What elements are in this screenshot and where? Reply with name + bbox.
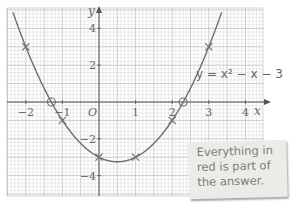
y-axis-label: y xyxy=(87,4,95,18)
y-tick-label: 2 xyxy=(89,59,96,72)
x-axis-label: x xyxy=(254,104,261,118)
x-tick-label: 1 xyxy=(132,106,139,119)
equation-label: y = x² − x − 3 xyxy=(196,67,283,81)
x-tick-label: 4 xyxy=(242,106,249,119)
x-tick-label: −2 xyxy=(18,106,34,119)
note-line-2: red is part of xyxy=(197,158,283,175)
y-tick-label: −2 xyxy=(80,133,96,146)
y-tick-label: −4 xyxy=(80,170,96,183)
x-tick-label: 3 xyxy=(205,106,212,119)
y-tick-label: 4 xyxy=(89,22,96,35)
origin-label: O xyxy=(88,106,97,119)
answer-note: Everything in red is part of the answer. xyxy=(188,140,287,200)
note-line-3: the answer. xyxy=(197,173,283,190)
